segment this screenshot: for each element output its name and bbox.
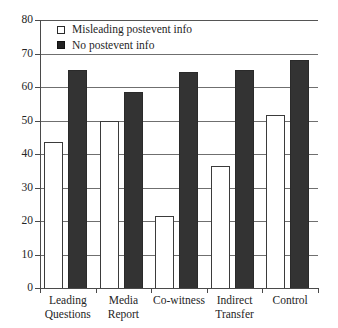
x-axis-label-line: Questions	[40, 308, 96, 322]
x-axis-tick-mark	[262, 288, 263, 293]
y-axis-tick-label: 70	[22, 48, 41, 60]
y-axis-tick-label: 50	[22, 115, 41, 127]
bar	[155, 216, 174, 288]
x-axis-tick-mark	[40, 288, 41, 293]
bar	[290, 60, 309, 288]
x-axis-label-line: Indirect	[207, 294, 263, 308]
y-axis-line	[40, 20, 41, 289]
x-axis-tick-mark	[96, 288, 97, 293]
bar	[211, 166, 230, 288]
legend-label: Misleading postevent info	[72, 24, 192, 36]
x-axis-label-line: Leading	[40, 294, 96, 308]
y-axis-tick-label: 40	[22, 148, 41, 160]
x-axis-label-line: Media	[96, 294, 152, 308]
x-axis-label-line: Control	[262, 294, 318, 308]
legend: Misleading postevent info No postevent i…	[57, 24, 192, 55]
y-axis-tick-label: 80	[22, 14, 41, 26]
x-axis-label: LeadingQuestions	[40, 294, 96, 321]
x-axis-label: Co-witness	[151, 294, 207, 308]
bar	[266, 115, 285, 288]
legend-swatch-open-square-icon	[57, 26, 65, 34]
legend-item-no-postevent: No postevent info	[57, 40, 192, 52]
x-axis-label: MediaReport	[96, 294, 152, 321]
bar	[100, 121, 119, 289]
bar	[124, 92, 143, 288]
x-axis-label: Control	[262, 294, 318, 308]
y-axis-tick-label: 60	[22, 81, 41, 93]
x-axis-label-line: Transfer	[207, 308, 263, 322]
x-axis-tick-mark	[151, 288, 152, 293]
y-axis-tick-label: 30	[22, 182, 41, 194]
x-axis-label-line: Report	[96, 308, 152, 322]
bar	[179, 72, 198, 288]
bar	[44, 142, 63, 288]
plot-area	[40, 20, 318, 288]
bar	[235, 70, 254, 288]
x-axis-label: IndirectTransfer	[207, 294, 263, 321]
x-axis-label-line: Co-witness	[151, 294, 207, 308]
legend-label: No postevent info	[72, 40, 154, 52]
bar-chart: 01020304050607080 LeadingQuestionsMediaR…	[0, 0, 338, 328]
y-axis-tick-label: 10	[22, 249, 41, 261]
x-axis-line	[40, 288, 318, 289]
x-axis-tick-mark	[318, 288, 319, 293]
y-axis-tick-label: 20	[22, 215, 41, 227]
legend-swatch-filled-square-icon	[57, 41, 65, 49]
x-axis-tick-mark	[207, 288, 208, 293]
gridline	[40, 20, 318, 21]
bar	[68, 70, 87, 288]
legend-item-misleading: Misleading postevent info	[57, 24, 192, 36]
y-axis-tick-label: 0	[27, 282, 40, 294]
